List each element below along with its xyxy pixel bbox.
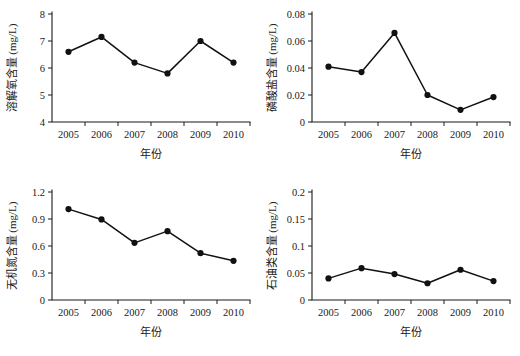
x-axis-title: 年份 bbox=[140, 147, 162, 160]
chart-panel-petroleum: 00.050.10.150.2200520062007200820092010年… bbox=[260, 178, 520, 356]
chart-panel-dissolved-oxygen: 45678200520062007200820092010年份溶解氧含量 (mg… bbox=[0, 0, 260, 178]
data-point-marker bbox=[391, 271, 397, 277]
y-tick-label: 0.15 bbox=[287, 214, 305, 225]
y-tick-label: 1.2 bbox=[32, 187, 45, 198]
x-tick-label: 2009 bbox=[450, 129, 471, 140]
data-point-marker bbox=[457, 267, 463, 273]
y-tick-label: 6 bbox=[40, 63, 45, 74]
data-point-marker bbox=[325, 275, 331, 281]
data-point-marker bbox=[325, 64, 331, 70]
y-tick-label: 0.04 bbox=[287, 63, 306, 74]
chart-svg-petroleum: 00.050.10.150.2200520062007200820092010年… bbox=[260, 178, 520, 356]
x-tick-label: 2010 bbox=[483, 307, 504, 318]
x-tick-label: 2007 bbox=[384, 307, 405, 318]
x-tick-label: 2009 bbox=[450, 307, 471, 318]
y-axis-title: 溶解氧含量 (mg/L) bbox=[5, 23, 19, 112]
y-tick-label: 4 bbox=[40, 117, 46, 128]
data-point-marker bbox=[490, 94, 496, 100]
data-point-marker bbox=[197, 38, 203, 44]
y-tick-label: 0 bbox=[40, 295, 45, 306]
y-tick-label: 7 bbox=[40, 36, 45, 47]
x-tick-label: 2005 bbox=[318, 129, 339, 140]
x-tick-label: 2008 bbox=[417, 129, 438, 140]
y-tick-label: 0 bbox=[300, 295, 305, 306]
data-point-marker bbox=[358, 265, 364, 271]
data-point-marker bbox=[424, 280, 430, 286]
y-axis-title: 无机氮含量 (mg/L) bbox=[5, 201, 19, 290]
x-tick-label: 2006 bbox=[351, 129, 372, 140]
y-tick-label: 5 bbox=[40, 90, 45, 101]
x-tick-label: 2010 bbox=[223, 307, 244, 318]
chart-panel-phosphate: 00.020.040.060.0820052006200720082009201… bbox=[260, 0, 520, 178]
chart-svg-inorganic-nitrogen: 00.30.60.91.2200520062007200820092010年份无… bbox=[0, 178, 260, 356]
x-tick-label: 2006 bbox=[91, 307, 112, 318]
x-axis-title: 年份 bbox=[140, 325, 162, 338]
data-point-marker bbox=[98, 216, 104, 222]
x-tick-label: 2008 bbox=[157, 129, 178, 140]
data-point-marker bbox=[457, 107, 463, 113]
data-point-marker bbox=[65, 206, 71, 212]
data-point-marker bbox=[358, 69, 364, 75]
x-tick-label: 2008 bbox=[417, 307, 438, 318]
x-tick-label: 2005 bbox=[58, 307, 79, 318]
x-tick-label: 2006 bbox=[91, 129, 112, 140]
data-point-marker bbox=[131, 240, 137, 246]
data-point-marker bbox=[164, 70, 170, 76]
data-point-marker bbox=[490, 278, 496, 284]
data-series-line bbox=[329, 268, 494, 283]
y-tick-label: 8 bbox=[40, 9, 45, 20]
x-tick-label: 2007 bbox=[384, 129, 405, 140]
data-point-marker bbox=[391, 30, 397, 36]
y-tick-label: 0.05 bbox=[287, 268, 305, 279]
x-tick-label: 2010 bbox=[483, 129, 504, 140]
data-point-marker bbox=[197, 250, 203, 256]
y-tick-label: 0.6 bbox=[32, 241, 45, 252]
figure-panel-grid: 45678200520062007200820092010年份溶解氧含量 (mg… bbox=[0, 0, 520, 356]
x-tick-label: 2006 bbox=[351, 307, 372, 318]
y-tick-label: 0.08 bbox=[287, 9, 305, 20]
y-tick-label: 0.02 bbox=[287, 90, 305, 101]
x-axis-title: 年份 bbox=[400, 147, 422, 160]
y-tick-label: 0 bbox=[300, 117, 305, 128]
data-series-line bbox=[69, 37, 234, 73]
x-axis-title: 年份 bbox=[400, 325, 422, 338]
data-point-marker bbox=[164, 228, 170, 234]
data-point-marker bbox=[230, 258, 236, 264]
y-tick-label: 0.3 bbox=[32, 268, 45, 279]
data-point-marker bbox=[65, 49, 71, 55]
chart-svg-phosphate: 00.020.040.060.0820052006200720082009201… bbox=[260, 0, 520, 178]
x-tick-label: 2009 bbox=[190, 129, 211, 140]
y-tick-label: 0.1 bbox=[292, 241, 305, 252]
x-tick-label: 2007 bbox=[124, 129, 145, 140]
x-tick-label: 2005 bbox=[58, 129, 79, 140]
data-point-marker bbox=[131, 60, 137, 66]
y-axis-title: 磷酸盐含量 (mg/L) bbox=[265, 23, 279, 112]
y-tick-label: 0.9 bbox=[32, 214, 45, 225]
chart-panel-inorganic-nitrogen: 00.30.60.91.2200520062007200820092010年份无… bbox=[0, 178, 260, 356]
y-tick-label: 0.2 bbox=[292, 187, 305, 198]
x-tick-label: 2005 bbox=[318, 307, 339, 318]
y-axis-title: 石油类含量 (mg/L) bbox=[265, 201, 279, 290]
data-point-marker bbox=[230, 60, 236, 66]
y-tick-label: 0.06 bbox=[287, 36, 305, 47]
x-tick-label: 2010 bbox=[223, 129, 244, 140]
chart-svg-dissolved-oxygen: 45678200520062007200820092010年份溶解氧含量 (mg… bbox=[0, 0, 260, 178]
data-series-line bbox=[69, 209, 234, 261]
x-tick-label: 2009 bbox=[190, 307, 211, 318]
x-tick-label: 2008 bbox=[157, 307, 178, 318]
data-point-marker bbox=[424, 92, 430, 98]
data-point-marker bbox=[98, 34, 104, 40]
data-series-line bbox=[329, 33, 494, 110]
x-tick-label: 2007 bbox=[124, 307, 145, 318]
